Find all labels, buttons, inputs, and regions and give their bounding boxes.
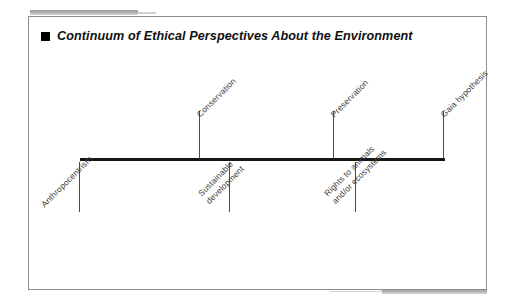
figure-canvas: Continuum of Ethical Perspectives About …	[0, 0, 515, 307]
continuum-label-line: Conservation	[195, 76, 239, 120]
continuum-label-preservation: Preservation	[329, 78, 371, 120]
continuum-diagram: AnthropocentrismConservationSustainabled…	[29, 17, 486, 289]
decorative-rule-top	[30, 10, 138, 15]
decorative-rule-top-thin	[138, 12, 156, 14]
continuum-label-line: Gaia hypothesis	[439, 68, 490, 119]
continuum-label-gaia-hypothesis: Gaia hypothesis	[439, 68, 490, 119]
decorative-rule-bottom-thin	[330, 291, 382, 292]
continuum-label-sustainable-development: Sustainabledevelopment	[196, 156, 246, 206]
continuum-label-line: Preservation	[329, 78, 371, 120]
figure-frame: Continuum of Ethical Perspectives About …	[28, 16, 487, 290]
continuum-label-anthropocentrism: Anthropocentrism	[39, 154, 95, 210]
continuum-label-line: Anthropocentrism	[39, 154, 95, 210]
continuum-axis-line	[80, 158, 445, 161]
continuum-label-conservation: Conservation	[195, 76, 239, 120]
